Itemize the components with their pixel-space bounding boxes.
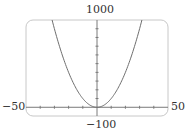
x-max-label: 50 xyxy=(171,101,185,112)
y-max-label: 1000 xyxy=(86,4,114,15)
y-min-label: −100 xyxy=(86,119,116,130)
x-min-label: −50 xyxy=(2,101,25,112)
axes xyxy=(26,20,168,116)
